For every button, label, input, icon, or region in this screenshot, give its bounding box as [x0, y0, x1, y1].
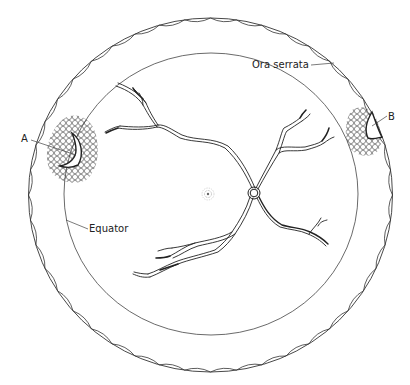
ora-serrata-circle	[29, 18, 393, 372]
ora-serrata-scallops	[29, 18, 393, 372]
fundus-diagram: Ora serrata Equator A B	[0, 0, 410, 385]
equator-circle	[64, 53, 358, 335]
leader-equator	[66, 220, 88, 229]
label-equator: Equator	[89, 224, 128, 234]
label-b: B	[388, 112, 395, 122]
retinal-vessels	[105, 83, 334, 277]
macula	[202, 188, 214, 200]
lesion-b	[346, 107, 382, 156]
label-ora-serrata: Ora serrata	[252, 60, 309, 70]
label-a: A	[21, 134, 28, 144]
lesion-a	[47, 116, 98, 183]
